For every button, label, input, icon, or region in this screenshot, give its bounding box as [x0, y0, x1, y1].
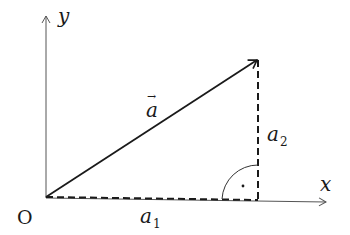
a2-subscript: 2 [280, 135, 288, 149]
y-axis-label: y [58, 6, 69, 26]
right-angle-arc [222, 165, 258, 199]
x-axis [46, 198, 326, 202]
vector-arrow-symbol: → [147, 91, 156, 102]
component-a2-label: a2 [267, 124, 288, 144]
x-axis-label: x [320, 174, 331, 194]
vector-a [46, 60, 257, 197]
component-a1-label: a1 [140, 206, 161, 226]
a2-base: a [267, 122, 279, 146]
vector-a-label: → a [146, 100, 158, 120]
origin-label: O [17, 208, 33, 227]
a1-subscript: 1 [153, 217, 161, 231]
a1-base: a [140, 204, 152, 228]
right-angle-dot [242, 185, 245, 188]
vector-diagram [0, 0, 350, 235]
